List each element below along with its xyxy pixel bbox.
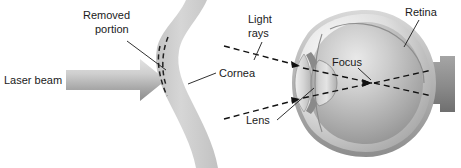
label-removed-portion-line2: portion [95, 23, 129, 35]
label-lens: Lens [246, 114, 270, 126]
cornea-band-shape [156, 0, 218, 168]
label-light-rays-line1: Light [248, 13, 272, 25]
light-ray-upper-incoming [224, 46, 300, 66]
diagram-canvas: Removed portion Laser beam Cornea Light … [0, 0, 461, 168]
label-laser-beam: Laser beam [4, 74, 62, 86]
label-removed-portion-line1: Removed [83, 9, 130, 21]
eye-laser-surgery-diagram: Removed portion Laser beam Cornea Light … [0, 0, 461, 168]
label-cornea: Cornea [219, 67, 256, 79]
leader-light-rays [254, 42, 262, 60]
enlarged-cornea-band [156, 0, 218, 168]
eye-globe-cross-section [292, 10, 455, 157]
label-focus: Focus [332, 56, 362, 68]
leader-cornea [188, 73, 216, 84]
label-light-rays-line2: rays [248, 27, 269, 39]
label-retina: Retina [405, 6, 438, 18]
laser-beam-arrow [66, 59, 166, 101]
